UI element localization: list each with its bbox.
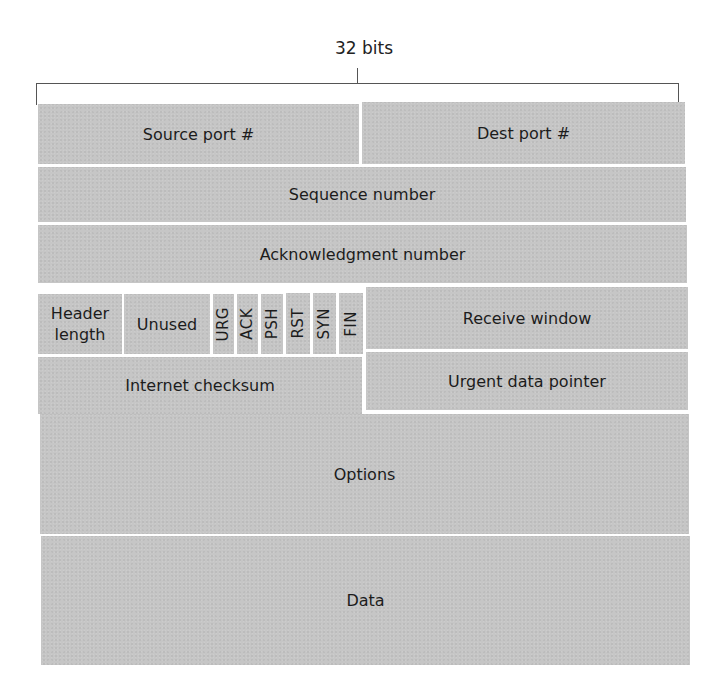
- field-label: Dest port #: [477, 124, 570, 143]
- field-label-line1: Header: [51, 303, 109, 324]
- field-label: Sequence number: [289, 185, 435, 204]
- flag-rst: RST: [286, 293, 310, 354]
- field-urgent-data-pointer: Urgent data pointer: [366, 352, 688, 410]
- field-label: Internet checksum: [125, 376, 275, 395]
- flag-ack: ACK: [237, 294, 258, 354]
- flag-psh: PSH: [261, 294, 283, 354]
- field-sequence-number: Sequence number: [38, 167, 686, 222]
- field-label: Urgent data pointer: [448, 372, 606, 391]
- flag-syn: SYN: [313, 293, 336, 354]
- field-label: Unused: [137, 315, 197, 334]
- field-options: Options: [40, 414, 689, 534]
- field-acknowledgment-number: Acknowledgment number: [38, 225, 687, 283]
- bracket-center-tick: [357, 68, 358, 83]
- field-source-port: Source port #: [38, 104, 359, 164]
- field-receive-window: Receive window: [366, 287, 688, 349]
- field-label-line2: length: [55, 324, 106, 345]
- flag-label: ACK: [240, 308, 255, 340]
- flag-label: RST: [291, 308, 306, 339]
- width-bracket: [36, 83, 679, 84]
- flag-label: SYN: [317, 308, 332, 339]
- field-label: Acknowledgment number: [260, 245, 466, 264]
- width-label: 32 bits: [0, 38, 728, 58]
- field-label: Source port #: [143, 125, 254, 144]
- flag-urg: URG: [213, 294, 234, 354]
- field-data: Data: [41, 536, 690, 665]
- field-internet-checksum: Internet checksum: [38, 357, 362, 414]
- field-dest-port: Dest port #: [362, 102, 685, 164]
- field-header-length: Header length: [38, 294, 122, 354]
- flag-label: FIN: [344, 311, 359, 337]
- field-label: Receive window: [463, 309, 591, 328]
- bracket-right-end: [678, 83, 679, 103]
- field-unused: Unused: [124, 294, 210, 354]
- field-label: Data: [346, 591, 384, 610]
- flag-label: PSH: [265, 308, 280, 339]
- flag-label: URG: [216, 307, 231, 342]
- bracket-left-end: [36, 83, 37, 105]
- flag-fin: FIN: [339, 293, 363, 354]
- field-label: Options: [334, 465, 396, 484]
